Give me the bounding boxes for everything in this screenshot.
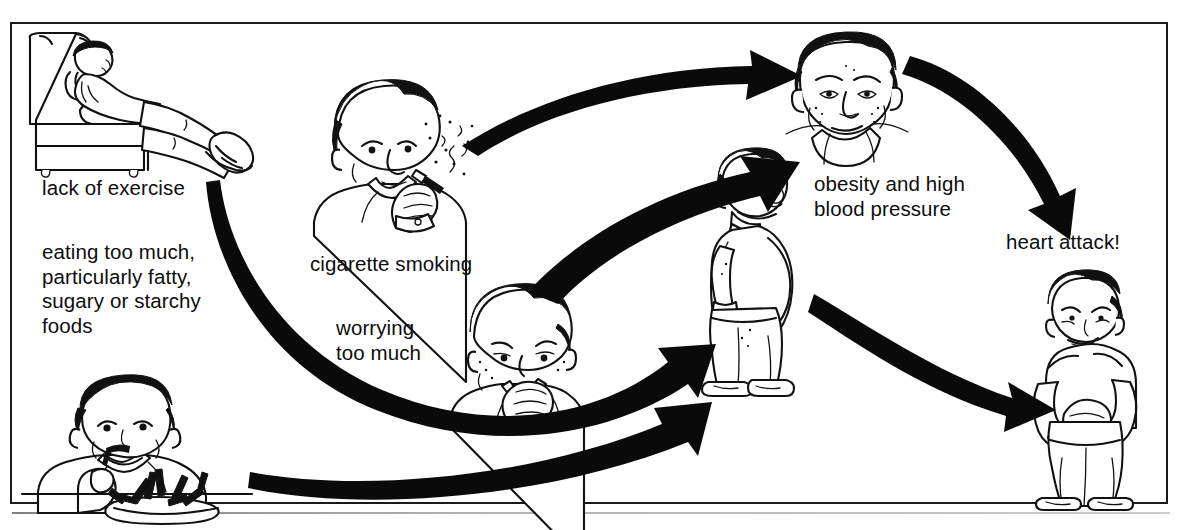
label-eating-too-much: eating too much, particularly fatty, sug…: [42, 240, 201, 338]
arrow-head-to-heart-attack: [900, 50, 1140, 240]
arrow-eating-to-obese-man: [246, 400, 746, 490]
man-lounging-in-armchair: [18, 24, 268, 184]
label-lack-of-exercise: lack of exercise: [42, 176, 185, 201]
arrow-obese-man-to-heart-attack: [808, 286, 1068, 436]
arrow-lack-of-exercise-to-obese-man: [206, 176, 726, 436]
diagram-canvas: lack of exercise eating too much, partic…: [0, 0, 1185, 530]
